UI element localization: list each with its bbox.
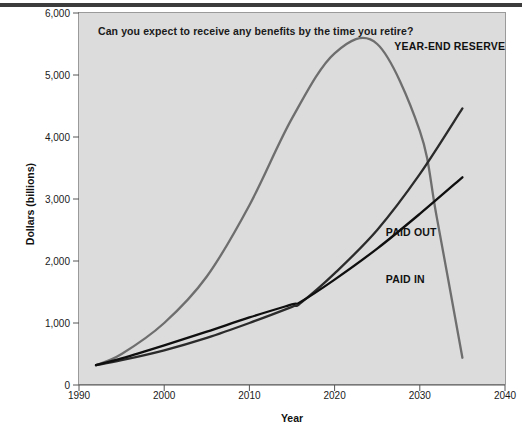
series-line: [96, 38, 462, 365]
series-annotation-label: PAID IN: [386, 273, 425, 285]
chart-figure: Can you expect to receive any benefits b…: [0, 0, 522, 432]
series-annotation-label: PAID OUT: [386, 226, 437, 238]
axis-line-layer: [73, 13, 505, 391]
series-annotation-label: YEAR-END RESERVE: [394, 40, 505, 52]
series-line-layer: [96, 38, 462, 365]
chart-plot: [0, 0, 522, 432]
series-line: [96, 177, 462, 365]
